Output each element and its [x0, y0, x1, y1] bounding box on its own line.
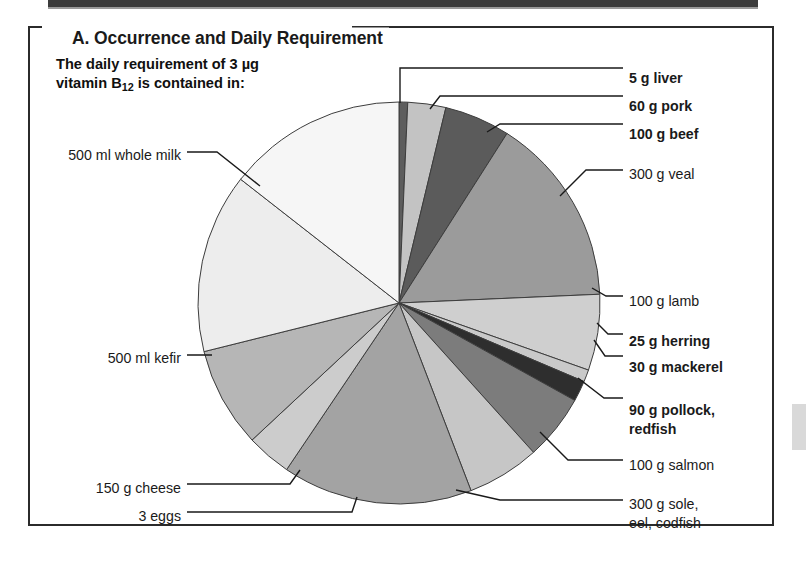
leader-line-herring	[597, 323, 623, 334]
slice-label-mackerel: 30 g mackerel	[629, 359, 723, 376]
page-root: A. Occurrence and Daily Requirement The …	[0, 0, 806, 561]
leader-line-liver	[400, 68, 623, 103]
slice-label-lamb: 100 g lamb	[629, 293, 699, 310]
pie-chart	[0, 0, 806, 561]
slice-label-pork: 60 g pork	[629, 98, 692, 115]
page-margin-tab	[792, 404, 806, 450]
slice-label-pollock-2: redfish	[629, 421, 676, 438]
slice-label-kefir: 500 ml kefir	[0, 350, 181, 367]
leader-line-sole	[456, 490, 623, 500]
leader-line-salmon	[540, 432, 623, 460]
slice-label-sole-2: eel, codfish	[629, 515, 701, 532]
leader-line-pork	[430, 96, 623, 109]
leader-line-veal	[560, 170, 623, 196]
slice-label-whole-milk: 500 ml whole milk	[0, 147, 181, 164]
slice-label-pollock-1: 90 g pollock,	[629, 402, 715, 419]
leader-line-beef	[487, 124, 623, 132]
slice-label-beef: 100 g beef	[629, 126, 698, 143]
slice-label-eggs: 3 eggs	[0, 508, 181, 525]
leader-line-mackerel	[594, 340, 623, 356]
slice-label-herring: 25 g herring	[629, 333, 710, 350]
slice-label-salmon: 100 g salmon	[629, 457, 714, 474]
leader-line-cheese	[187, 470, 300, 484]
pie-slices	[198, 102, 600, 504]
slice-label-veal: 300 g veal	[629, 166, 694, 183]
leader-line-eggs	[187, 497, 357, 512]
slice-label-cheese: 150 g cheese	[0, 480, 181, 497]
slice-label-liver: 5 g liver	[629, 70, 683, 87]
slice-label-sole-1: 300 g sole,	[629, 496, 698, 513]
